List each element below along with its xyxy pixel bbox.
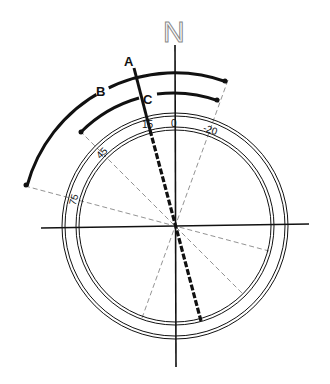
- arc-B-end-right: [223, 79, 228, 84]
- reference-line-75: [25, 186, 269, 251]
- arc-C-right: [157, 93, 219, 101]
- north-label: N: [163, 15, 185, 48]
- diagram-canvas: A B C N 15 0 -20 45 75: [0, 0, 330, 384]
- label-A: A: [124, 54, 134, 69]
- compass-diagram: A B C N 15 0 -20 45 75: [0, 0, 330, 384]
- label-B: B: [96, 84, 105, 99]
- arc-C-end-right: [215, 98, 220, 103]
- reference-line-minus20: [142, 80, 228, 318]
- arc-B-end-left: [24, 183, 29, 188]
- label-C: C: [143, 92, 153, 107]
- scale-label-0: 0: [171, 118, 177, 129]
- scale-label-15: 15: [142, 119, 154, 130]
- arc-C-left: [81, 98, 139, 132]
- arc-C-end-left: [79, 130, 84, 135]
